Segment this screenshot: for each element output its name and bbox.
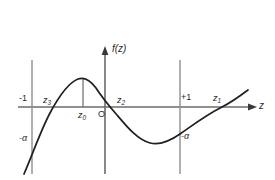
- origin-label: O: [98, 110, 105, 119]
- level-label-alpha-right: -α: [181, 132, 189, 141]
- level-label-alpha-left: -α: [19, 134, 27, 143]
- root-label-z3: z3: [43, 96, 51, 105]
- y-axis-arrowhead: [102, 46, 109, 55]
- root-label-z2: z2: [117, 96, 125, 105]
- x-tick-label-plus-one: +1: [181, 93, 191, 102]
- max-abscissa-label-z0-base: z: [78, 110, 83, 120]
- root-label-z1-base: z: [213, 93, 218, 103]
- y-axis-label: f(z): [112, 44, 126, 54]
- figure-container: f(z) z O -1 +1 z3 z0 z2 z1 -α -α: [0, 0, 275, 180]
- root-label-z3-base: z: [43, 95, 48, 105]
- x-axis-label: z: [259, 101, 264, 111]
- max-abscissa-label-z0: z0: [78, 111, 86, 120]
- root-label-z3-subscript: 3: [48, 99, 52, 106]
- root-label-z1-subscript: 1: [218, 97, 222, 104]
- root-label-z1: z1: [213, 94, 221, 103]
- root-label-z2-base: z: [117, 95, 122, 105]
- x-tick-label-minus-one: -1: [19, 94, 27, 103]
- plot-area: [0, 0, 275, 180]
- max-abscissa-label-z0-subscript: 0: [83, 114, 87, 121]
- root-label-z2-subscript: 2: [122, 99, 126, 106]
- x-axis-arrowhead: [248, 103, 257, 110]
